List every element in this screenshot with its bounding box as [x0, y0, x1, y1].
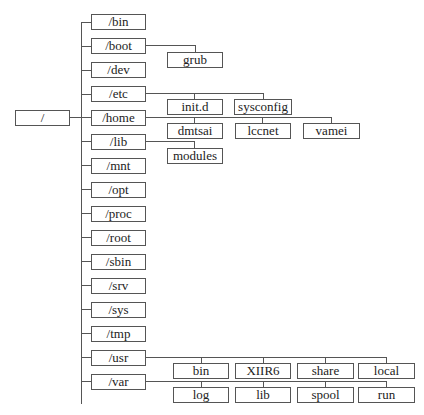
- node-usr-local: local: [358, 363, 415, 379]
- node-var-lib: lib: [235, 387, 291, 403]
- node-etc-sysconfig: sysconfig: [234, 99, 292, 115]
- node-var: /var: [91, 374, 146, 390]
- node-usr-share: share: [297, 363, 354, 379]
- node-mnt: /mnt: [91, 158, 146, 174]
- node-root: /: [15, 110, 70, 126]
- node-tmp: /tmp: [91, 326, 146, 342]
- node-boot-grub: grub: [167, 52, 223, 68]
- node-etc: /etc: [91, 86, 146, 102]
- node-var-log: log: [173, 387, 229, 403]
- node-lib-modules: modules: [167, 148, 223, 164]
- node-home-vamei: vamei: [303, 123, 360, 139]
- node-proc: /proc: [91, 206, 146, 222]
- node-home-lccnet: lccnet: [235, 123, 291, 139]
- node-sbin: /sbin: [91, 254, 146, 270]
- node-etc-initd: init.d: [167, 99, 223, 115]
- node-home: /home: [91, 110, 146, 126]
- node-var-spool: spool: [297, 387, 354, 403]
- node-boot: /boot: [91, 38, 146, 54]
- node-home-dmtsai: dmtsai: [167, 123, 223, 139]
- node-usr: /usr: [91, 350, 146, 366]
- node-root-dir: /root: [91, 230, 146, 246]
- filesystem-tree-diagram: / /bin /boot /dev /etc /home /lib /mnt /…: [0, 0, 424, 415]
- node-dev: /dev: [91, 62, 146, 78]
- node-sys: /sys: [91, 302, 146, 318]
- node-opt: /opt: [91, 182, 146, 198]
- node-usr-xiir6: XIIR6: [235, 363, 291, 379]
- node-srv: /srv: [91, 278, 146, 294]
- node-var-run: run: [358, 387, 415, 403]
- node-usr-bin: bin: [173, 363, 229, 379]
- node-bin: /bin: [91, 14, 146, 30]
- node-lib: /lib: [91, 134, 146, 150]
